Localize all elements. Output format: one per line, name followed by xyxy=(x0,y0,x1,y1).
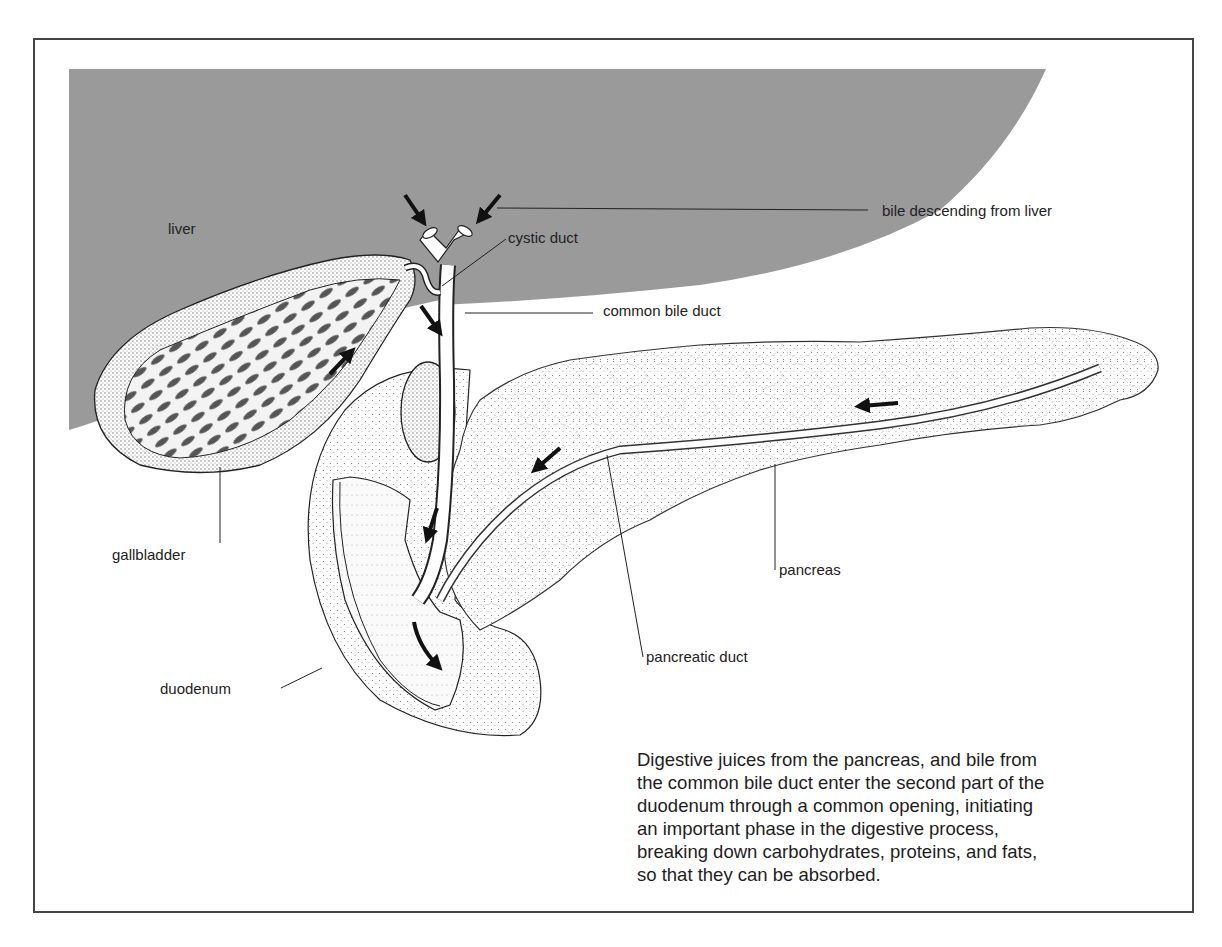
common-duct-arrow-upper-icon xyxy=(421,306,438,330)
label-duodenum: duodenum xyxy=(160,681,231,696)
label-common-bile-duct: common bile duct xyxy=(603,303,721,318)
label-bile-descending: bile descending from liver xyxy=(882,203,1052,218)
caption-line: an important phase in the digestive proc… xyxy=(637,817,1157,840)
caption-line: so that they can be absorbed. xyxy=(637,863,1157,886)
caption-line: breaking down carbohydrates, proteins, a… xyxy=(637,840,1157,863)
label-cystic-duct: cystic duct xyxy=(508,230,578,245)
label-pancreatic-duct: pancreatic duct xyxy=(646,649,748,664)
label-gallbladder: gallbladder xyxy=(112,547,185,562)
caption-line: duodenum through a common opening, initi… xyxy=(637,794,1157,817)
figure-caption: Digestive juices from the pancreas, and … xyxy=(637,748,1157,886)
label-liver: liver xyxy=(168,221,196,236)
caption-line: the common bile duct enter the second pa… xyxy=(637,771,1157,794)
caption-line: Digestive juices from the pancreas, and … xyxy=(637,748,1157,771)
digestive-anatomy-figure: liver bile descending from liver cystic … xyxy=(0,0,1222,947)
label-pancreas: pancreas xyxy=(779,562,841,577)
leader-duodenum xyxy=(281,668,322,688)
